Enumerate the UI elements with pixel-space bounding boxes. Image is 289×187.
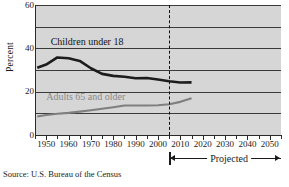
- x-axis-tick-label: 2030: [216, 140, 234, 149]
- source-note: Source: U.S. Bureau of the Census: [3, 170, 121, 179]
- x-axis-tick-label: 2050: [261, 140, 279, 149]
- y-axis-tick-label: 60: [0, 1, 34, 10]
- x-axis-tick-label: 1980: [104, 140, 122, 149]
- x-axis-tick-label: 2000: [149, 140, 167, 149]
- y-axis-title: Percent: [5, 25, 15, 89]
- series-label-children-under-18: Children under 18: [51, 37, 124, 47]
- x-axis-minor-tick: [236, 135, 237, 139]
- projected-annotation: Projected: [169, 152, 281, 166]
- y-axis-tick-label: 20: [0, 87, 34, 96]
- x-axis-minor-tick: [35, 135, 36, 139]
- series-label-adults-65-and-older: Adults 65 and older: [46, 92, 125, 102]
- arrow-right-icon: [275, 155, 280, 161]
- x-axis-minor-tick: [169, 135, 170, 139]
- x-axis-minor-tick: [259, 135, 260, 139]
- x-axis-tick-label: 1950: [37, 140, 55, 149]
- arrow-left-icon: [170, 155, 175, 161]
- x-axis-tick-label: 1970: [82, 140, 100, 149]
- x-axis-tick-label: 2020: [194, 140, 212, 149]
- y-axis-tick-label: 40: [0, 44, 34, 53]
- x-axis-minor-tick: [124, 135, 125, 139]
- x-axis-minor-tick: [281, 135, 282, 139]
- x-axis-minor-tick: [102, 135, 103, 139]
- y-axis-tick-label: 0: [0, 131, 34, 140]
- series-layer: [35, 5, 281, 135]
- x-axis-tick-label: 2010: [171, 140, 189, 149]
- x-axis-tick-label: 1960: [60, 140, 78, 149]
- projected-label: Projected: [207, 152, 251, 165]
- projection-divider-line: [169, 5, 170, 135]
- x-axis-minor-tick: [214, 135, 215, 139]
- x-axis-minor-tick: [57, 135, 58, 139]
- x-axis-minor-tick: [80, 135, 81, 139]
- x-axis-tick-label: 2040: [238, 140, 256, 149]
- x-axis-tick-label: 1990: [127, 140, 145, 149]
- x-axis-minor-tick: [192, 135, 193, 139]
- chart-figure: Percent Children under 18 Adults 65 and …: [0, 0, 289, 187]
- x-axis-minor-tick: [147, 135, 148, 139]
